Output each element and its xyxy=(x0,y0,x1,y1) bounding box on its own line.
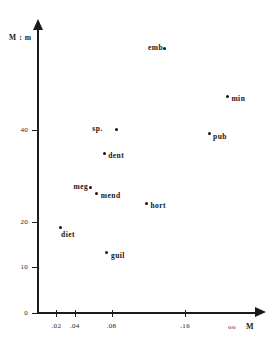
y-axis-title: M : m xyxy=(9,33,32,42)
y-tick-mark xyxy=(32,130,39,131)
x-tick-label: .16 xyxy=(172,322,198,330)
data-point xyxy=(145,202,148,205)
y-tick-label: 10 xyxy=(6,263,28,271)
data-point-label: sp. xyxy=(92,124,102,133)
data-point xyxy=(226,95,229,98)
scatter-plot: M : m M oo 0102040 .02.04.08.16 embminsp… xyxy=(0,0,279,355)
y-tick-mark xyxy=(32,267,39,268)
data-point-label: pub xyxy=(213,132,227,141)
x-tick-mark xyxy=(75,310,76,317)
y-tick-mark xyxy=(32,222,39,223)
data-point-label: dent xyxy=(108,151,124,160)
data-point xyxy=(208,132,211,135)
x-tick-label: .04 xyxy=(62,322,88,330)
y-tick-mark xyxy=(32,313,39,314)
data-point xyxy=(89,186,92,189)
x-tick-mark xyxy=(112,310,113,317)
y-axis-arrow-icon xyxy=(33,19,43,30)
x-axis-line xyxy=(37,312,259,314)
y-axis-line xyxy=(37,28,39,314)
x-tick-mark xyxy=(56,310,57,317)
x-axis-arrow-icon xyxy=(255,307,266,317)
x-axis-end-label: oo xyxy=(228,323,236,331)
x-tick-mark xyxy=(185,310,186,317)
data-point-label: mend xyxy=(101,191,121,200)
y-tick-label: 20 xyxy=(6,218,28,226)
y-tick-label: 40 xyxy=(6,126,28,134)
data-point-label: min xyxy=(231,94,245,103)
data-point xyxy=(163,47,166,50)
data-point xyxy=(115,128,118,131)
data-point-label: meg xyxy=(74,182,89,191)
data-point xyxy=(95,192,98,195)
data-point-label: emb xyxy=(148,43,163,52)
data-point xyxy=(103,152,106,155)
data-point-label: diet xyxy=(61,230,75,239)
y-tick-label: 0 xyxy=(6,309,28,317)
data-point xyxy=(105,251,108,254)
x-tick-label: .08 xyxy=(99,322,125,330)
data-point-label: guil xyxy=(111,251,125,260)
data-point-label: hort xyxy=(151,201,167,210)
x-axis-title: M xyxy=(246,322,254,331)
